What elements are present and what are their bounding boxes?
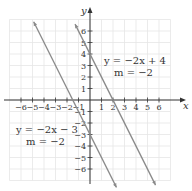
coordinate-plane: −6−5−4−3−2−1123456−6−5−4−3−2−1123456 x y… <box>0 0 192 191</box>
line1-equation: y = −2x + 4 <box>103 55 166 66</box>
x-axis-label: x <box>183 100 189 111</box>
y-tick-label: −4 <box>74 142 86 151</box>
x-tick-label: −5 <box>27 103 39 112</box>
x-tick-label: 5 <box>145 103 150 112</box>
line2-slope: m = −2 <box>26 136 65 147</box>
line2-equation: y = −2x − 3 <box>15 124 78 135</box>
x-tick-label: 6 <box>156 103 161 112</box>
y-tick-label: −5 <box>74 154 86 163</box>
y-tick-label: 2 <box>81 73 86 82</box>
line-series-1 <box>75 24 156 185</box>
x-tick-label: 3 <box>122 103 127 112</box>
x-tick-label: −2 <box>61 103 73 112</box>
y-tick-label: 3 <box>81 62 86 71</box>
y-tick-label: 4 <box>81 50 86 59</box>
x-tick-label: 4 <box>133 103 138 112</box>
y-tick-label: 6 <box>81 27 86 36</box>
x-tick-label: −4 <box>38 103 50 112</box>
y-axis-label: y <box>80 5 87 16</box>
y-tick-label: 1 <box>81 85 86 94</box>
x-tick-label: −6 <box>15 103 27 112</box>
x-tick-label: 1 <box>99 103 104 112</box>
line1-slope: m = −2 <box>114 67 153 78</box>
y-axis-arrow-icon <box>88 7 93 13</box>
x-tick-label: −3 <box>50 103 62 112</box>
y-tick-label: −6 <box>74 165 86 174</box>
